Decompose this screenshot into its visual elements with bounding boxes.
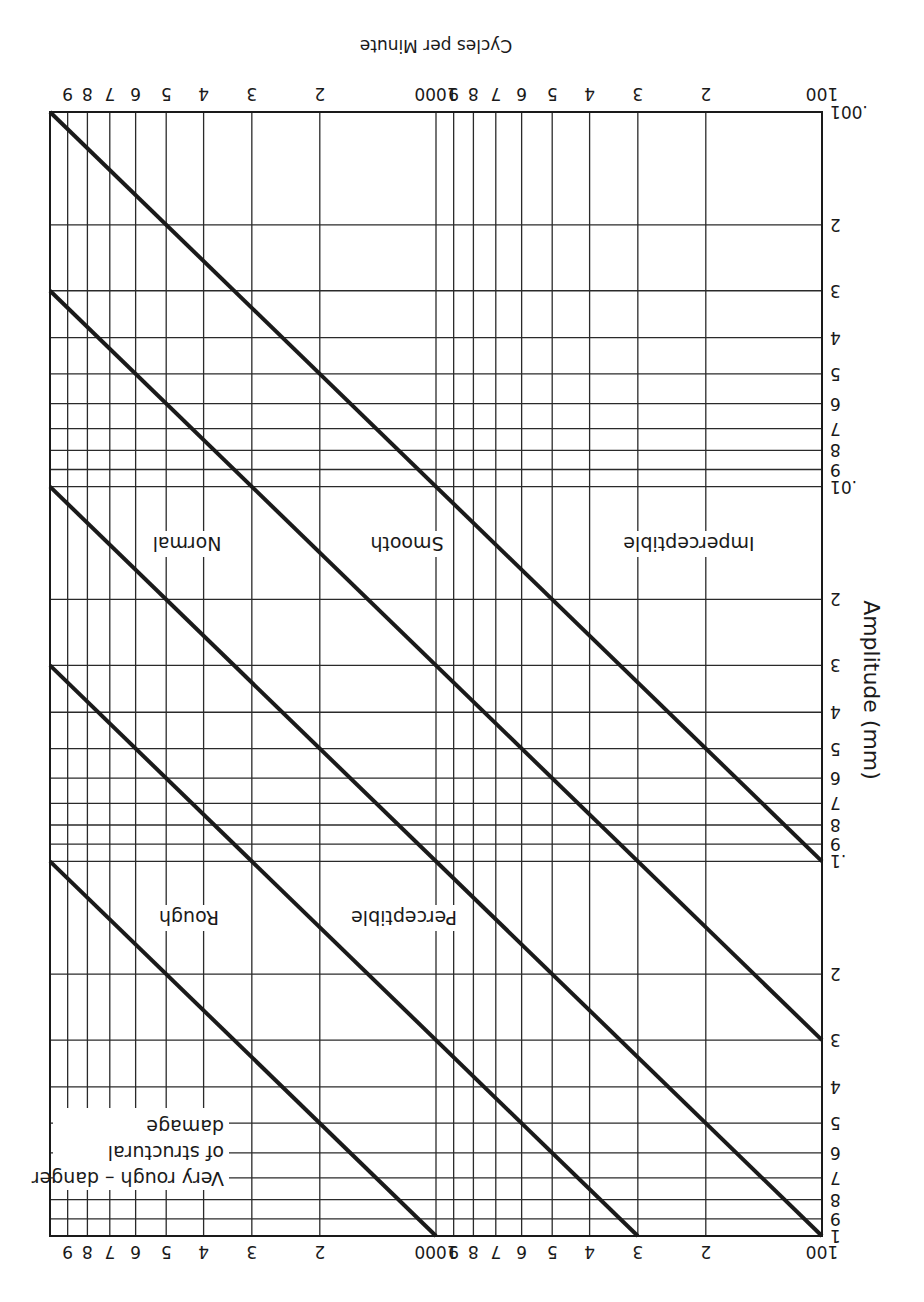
- x-axis-ticks-upper: 10023456789100023456789: [62, 1242, 838, 1262]
- y-tick-label: 4: [830, 1077, 841, 1097]
- zone-label-imperceptible: Imperceptible: [623, 533, 754, 555]
- x-tick-label: 5: [161, 1242, 172, 1262]
- y-tick-label: 7: [830, 793, 841, 813]
- y-tick-label: 5: [830, 739, 841, 759]
- x-tick-label: 6: [516, 1242, 527, 1262]
- x-axis-title: Cycles per Minute: [360, 36, 512, 56]
- y-tick-label: .01: [830, 477, 857, 497]
- y-tick-label: 3: [830, 281, 841, 301]
- x-axis-ticks-lower: 10023456789100023456789: [62, 84, 838, 104]
- y-tick-label: 8: [830, 815, 841, 835]
- y-tick-label: 2: [830, 589, 841, 609]
- x-tick-label: 8: [468, 1242, 479, 1262]
- y-tick-label: 2: [830, 215, 841, 235]
- y-tick-label: 9: [830, 1209, 841, 1229]
- y-tick-label: 1: [830, 1226, 841, 1246]
- y-tick-label: .1: [830, 851, 846, 871]
- y-axis-title: Amplitude (mm): [859, 600, 884, 780]
- x-tick-label: 8: [468, 84, 479, 104]
- x-tick-label: 4: [198, 1242, 209, 1262]
- zone-label-rough: Rough: [159, 907, 219, 929]
- x-tick-label: 4: [584, 1242, 595, 1262]
- zone-label-smooth: Smooth: [370, 533, 443, 555]
- y-tick-label: 6: [830, 768, 841, 788]
- x-tick-label: 1000: [414, 84, 457, 104]
- y-tick-label: 5: [830, 1113, 841, 1133]
- y-tick-label: 8: [830, 1190, 841, 1210]
- x-tick-label: 3: [632, 84, 643, 104]
- y-tick-label: 7: [830, 1168, 841, 1188]
- x-tick-label: 7: [104, 1242, 115, 1262]
- y-tick-label: 4: [830, 702, 841, 722]
- x-tick-label: 5: [547, 1242, 558, 1262]
- y-tick-label: 7: [830, 419, 841, 439]
- x-tick-label: 100: [806, 84, 838, 104]
- x-tick-label: 6: [130, 1242, 141, 1262]
- y-tick-label: 8: [830, 440, 841, 460]
- x-tick-label: 2: [314, 1242, 325, 1262]
- zone-label-perceptible: Perceptible: [351, 907, 457, 929]
- zone-label-very-rough-line1: Very rough – danger: [31, 1168, 224, 1190]
- y-tick-label: 3: [830, 655, 841, 675]
- x-tick-label: 4: [584, 84, 595, 104]
- x-tick-label: 6: [516, 84, 527, 104]
- x-tick-label: 2: [700, 84, 711, 104]
- x-tick-label: 5: [161, 84, 172, 104]
- y-tick-label: 6: [830, 1143, 841, 1163]
- x-tick-label: 7: [490, 84, 501, 104]
- x-tick-label: 7: [490, 1242, 501, 1262]
- y-tick-label: 6: [830, 394, 841, 414]
- x-tick-label: 5: [547, 84, 558, 104]
- x-tick-label: 2: [314, 84, 325, 104]
- vibration-severity-chart: Imperceptible Smooth Normal Perceptible …: [0, 0, 924, 1302]
- x-tick-label: 9: [62, 1242, 73, 1262]
- y-tick-label: 9: [830, 834, 841, 854]
- x-tick-label: 7: [104, 84, 115, 104]
- x-tick-label: 3: [632, 1242, 643, 1262]
- chart-rotated-group: Imperceptible Smooth Normal Perceptible …: [31, 36, 867, 1262]
- zone-label-normal: Normal: [153, 533, 222, 555]
- zone-label-very-rough-line3: damage: [146, 1116, 224, 1138]
- x-tick-label: 3: [246, 1242, 257, 1262]
- y-tick-label: 4: [830, 328, 841, 348]
- x-tick-label: 9: [62, 84, 73, 104]
- y-tick-label: .001: [830, 102, 868, 122]
- zone-labels: Imperceptible Smooth Normal Perceptible …: [31, 531, 754, 1190]
- y-tick-label: 9: [830, 460, 841, 480]
- x-tick-label: 2: [700, 1242, 711, 1262]
- y-tick-label: 3: [830, 1030, 841, 1050]
- y-tick-label: 2: [830, 964, 841, 984]
- y-tick-label: 5: [830, 364, 841, 384]
- x-tick-label: 3: [246, 84, 257, 104]
- x-tick-label: 1000: [414, 1242, 457, 1262]
- x-tick-label: 8: [82, 84, 93, 104]
- x-tick-label: 6: [130, 84, 141, 104]
- x-tick-label: 4: [198, 84, 209, 104]
- x-tick-label: 8: [82, 1242, 93, 1262]
- zone-label-very-rough-line2: of structural: [108, 1142, 224, 1164]
